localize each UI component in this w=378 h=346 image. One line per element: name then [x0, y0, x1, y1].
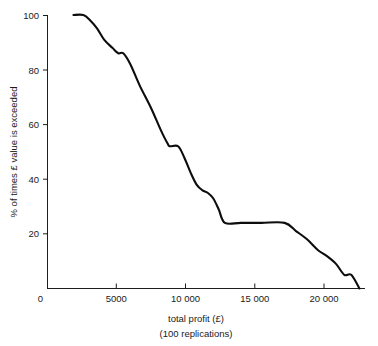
line-chart-svg: 100 80 60 40 20 0 5000 10 000 15 000 20 …	[0, 0, 378, 346]
y-tick-label-60: 60	[28, 119, 39, 130]
chart-container: 100 80 60 40 20 0 5000 10 000 15 000 20 …	[0, 0, 378, 346]
x-axis-subtitle: (100 replications)	[160, 328, 233, 339]
y-tick-marks	[43, 16, 48, 234]
profit-exceedance-curve	[73, 15, 359, 289]
y-axis-title: % of times £ value is exceeded	[8, 87, 19, 218]
x-tick-marks	[116, 284, 324, 289]
x-tick-label-20000: 20 000	[309, 293, 338, 304]
x-tick-label-10000: 10 000	[171, 293, 200, 304]
y-tick-label-0: 0	[38, 293, 43, 304]
y-tick-label-20: 20	[28, 228, 39, 239]
x-tick-label-5000: 5000	[106, 293, 127, 304]
x-axis-title: total profit (£)	[168, 313, 224, 324]
y-tick-label-80: 80	[28, 65, 39, 76]
y-tick-label-40: 40	[28, 174, 39, 185]
x-tick-label-15000: 15 000	[240, 293, 269, 304]
y-tick-label-100: 100	[23, 10, 39, 21]
